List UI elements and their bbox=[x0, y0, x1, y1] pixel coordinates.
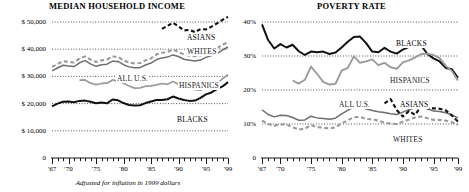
x-axis-tick-label: '80 bbox=[337, 165, 345, 173]
series-label-blacks: BLACKS bbox=[176, 115, 209, 124]
series-label-blacks: BLACKS bbox=[395, 39, 428, 48]
x-axis-tick-label: '70 bbox=[64, 165, 72, 173]
y-axis-tick-label: 10% bbox=[234, 120, 256, 128]
series-label-hispanics: HISPANICS bbox=[389, 76, 431, 85]
series-label-asians: ASIANS bbox=[186, 33, 216, 42]
series-label-whites: WHITES bbox=[186, 47, 218, 56]
x-axis-tick-label: '70 bbox=[276, 165, 284, 173]
x-axis-tick-label: '85 bbox=[368, 165, 376, 173]
series-label-all-u-s: ALL U.S. bbox=[338, 100, 371, 109]
series-line-asians bbox=[162, 17, 228, 32]
x-axis-tick-label: '95 bbox=[202, 165, 210, 173]
series-line-whites bbox=[262, 117, 458, 130]
x-axis-tick-label: '99 bbox=[454, 165, 462, 173]
x-axis-tick-label: '99 bbox=[224, 165, 232, 173]
income-chart-svg bbox=[0, 0, 235, 192]
series-label-asians: ASIANS bbox=[399, 100, 429, 109]
y-axis-tick-label: 0 bbox=[0, 154, 46, 162]
x-axis-tick-label: '67 bbox=[258, 165, 266, 173]
y-axis-tick-label: 0 bbox=[234, 154, 256, 162]
x-axis-tick-label: '75 bbox=[307, 165, 315, 173]
poverty-chart-svg bbox=[234, 0, 469, 192]
y-axis-tick-label: $ 40,000 bbox=[0, 45, 46, 53]
y-axis-tick-label: 40% bbox=[234, 18, 256, 26]
figure-root: MEDIAN HOUSEHOLD INCOME 0$ 10,000$ 20,00… bbox=[0, 0, 469, 192]
x-axis-tick-label: '85 bbox=[147, 165, 155, 173]
series-label-hispanics: HISPANICS bbox=[178, 81, 220, 90]
x-axis-tick-label: '90 bbox=[174, 165, 182, 173]
chart-panel-poverty-rate: POVERTY RATE 010%20%30%40%'67'70'75'80'8… bbox=[234, 0, 469, 192]
series-label-whites: WHITES bbox=[392, 135, 424, 144]
y-axis-tick-label: 20% bbox=[234, 86, 256, 94]
chart-panel-median-household-income: MEDIAN HOUSEHOLD INCOME 0$ 10,000$ 20,00… bbox=[0, 0, 234, 192]
figure-footnote: Adjusted for inflation in 1999 dollars bbox=[76, 179, 180, 187]
x-axis-tick-label: '80 bbox=[119, 165, 127, 173]
y-axis-tick-label: $ 10,000 bbox=[0, 127, 46, 135]
x-axis-tick-label: '90 bbox=[399, 165, 407, 173]
y-axis-tick-label: $ 20,000 bbox=[0, 100, 46, 108]
series-line-blacks bbox=[262, 24, 458, 77]
y-axis-tick-label: $ 50,000 bbox=[0, 18, 46, 26]
series-label-all-u-s: ALL U.S. bbox=[116, 74, 149, 83]
y-axis-tick-label: 30% bbox=[234, 52, 256, 60]
x-axis-tick-label: '67 bbox=[48, 165, 56, 173]
x-axis-tick-label: '95 bbox=[429, 165, 437, 173]
x-axis-tick-label: '75 bbox=[92, 165, 100, 173]
y-axis-tick-label: $ 30,000 bbox=[0, 72, 46, 80]
